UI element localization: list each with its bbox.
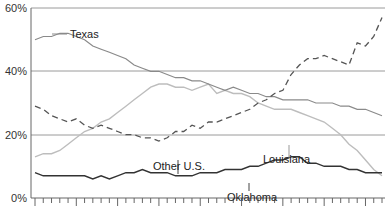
series-texas-line bbox=[35, 33, 382, 115]
y-tick-label-0: 0% bbox=[11, 192, 27, 204]
texas-label: Texas bbox=[70, 28, 99, 40]
series-oklahoma-line bbox=[35, 157, 382, 179]
louisiana-label: Louisiana bbox=[263, 153, 311, 165]
other-us-label: Other U.S. bbox=[153, 160, 205, 172]
y-tick-label-60: 60% bbox=[5, 2, 27, 14]
oklahoma-label: Oklahoma bbox=[227, 191, 278, 203]
series-group bbox=[35, 18, 382, 180]
line-chart: 60% 40% 20% 0% Texas Other U.S. Louisian… bbox=[0, 0, 389, 211]
y-tick-label-20: 20% bbox=[5, 129, 27, 141]
series-louisiana-line bbox=[35, 84, 382, 176]
y-tick-label-40: 40% bbox=[5, 65, 27, 77]
x-axis-ticks bbox=[35, 198, 382, 206]
